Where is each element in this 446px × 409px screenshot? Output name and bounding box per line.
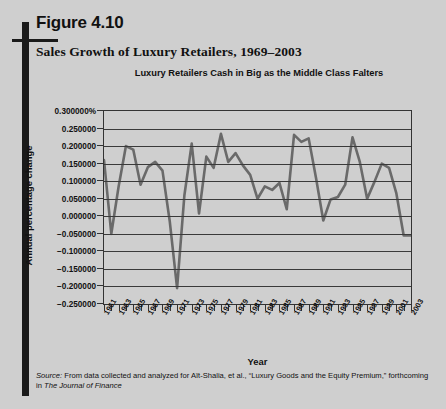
y-tick-label: −0.250000 xyxy=(57,300,96,309)
y-tick xyxy=(97,198,103,199)
y-tick-label: 0.100000 xyxy=(62,177,96,186)
plot-area xyxy=(103,110,412,305)
y-tick xyxy=(97,180,103,181)
y-tick xyxy=(97,128,103,129)
y-tick xyxy=(97,163,103,164)
gridline xyxy=(104,164,411,165)
gridline xyxy=(104,269,411,270)
y-tick xyxy=(97,145,103,146)
figure-card: Figure 4.10 Sales Growth of Luxury Retai… xyxy=(0,0,446,409)
x-axis-title: Year xyxy=(103,356,412,367)
y-tick-label: −0.200000 xyxy=(57,282,96,291)
y-tick-label: 0.250000 xyxy=(62,124,96,133)
chart-plot: Annual percentage change 0.300000%0.2500… xyxy=(0,0,446,409)
y-tick-label: −0.150000 xyxy=(57,264,96,273)
y-tick xyxy=(97,215,103,216)
y-tick xyxy=(97,303,103,304)
data-series-line xyxy=(104,111,411,304)
y-tick xyxy=(97,268,103,269)
source-prefix: Source: xyxy=(36,371,62,380)
gridline xyxy=(104,146,411,147)
y-tick-label: −0.050000 xyxy=(57,229,96,238)
y-tick xyxy=(97,250,103,251)
source-note: Source: From data collected and analyzed… xyxy=(36,371,430,392)
y-tick-label: 0.150000 xyxy=(62,159,96,168)
gridline xyxy=(104,199,411,200)
source-journal: The Journal of Finance xyxy=(44,381,122,390)
gridline xyxy=(104,251,411,252)
y-tick-label: −0.100000 xyxy=(57,247,96,256)
y-tick-label: 0.200000 xyxy=(62,142,96,151)
y-tick-label: 0.300000% xyxy=(55,107,96,116)
gridline xyxy=(104,234,411,235)
gridline xyxy=(104,216,411,217)
y-tick-label: 0.050000 xyxy=(62,194,96,203)
gridline xyxy=(104,129,411,130)
x-axis-labels: 1961196319651967196919711973197519771979… xyxy=(103,312,412,356)
gridline xyxy=(104,286,411,287)
y-tick xyxy=(97,233,103,234)
y-axis-labels: 0.300000%0.2500000.2000000.1500000.10000… xyxy=(22,110,100,305)
y-tick xyxy=(97,110,103,111)
y-tick-label: 0.000000 xyxy=(62,212,96,221)
gridline xyxy=(104,181,411,182)
y-tick xyxy=(97,285,103,286)
